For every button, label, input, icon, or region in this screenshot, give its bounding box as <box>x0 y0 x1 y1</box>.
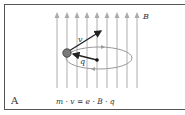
field-label: B <box>142 12 149 21</box>
equation: m · v = e · B · q <box>56 97 115 106</box>
panel-label: A <box>10 95 19 106</box>
velocity-label: v <box>78 35 83 44</box>
particle-icon <box>63 49 71 57</box>
orbit-arrow-left-icon <box>91 67 95 71</box>
radius-label: q <box>80 57 85 66</box>
orbit-ellipse <box>66 47 132 69</box>
field-arrowheads-icon <box>55 12 140 18</box>
magnetic-field-diagram: v q B A m · v = e · B · q <box>0 0 185 115</box>
orbit-center-dot <box>95 58 99 62</box>
orbit-arrow-right-icon <box>101 45 105 49</box>
